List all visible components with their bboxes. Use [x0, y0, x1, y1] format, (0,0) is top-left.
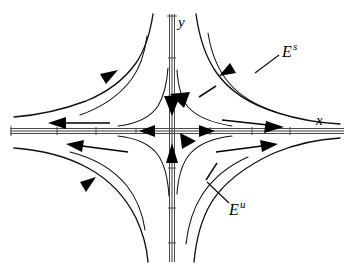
curve-flow-arrows — [80, 63, 236, 192]
trajectory-q4-outer — [194, 138, 340, 262]
x-axis-label: x — [315, 112, 323, 128]
arrow-axis-y-lower — [166, 143, 178, 163]
unstable-manifold-label: E u — [228, 198, 246, 218]
arrow-q3-curve — [80, 177, 96, 192]
y-axis — [167, 14, 177, 262]
arrow-axis-x-right-inner — [199, 125, 215, 137]
stable-manifold-label-sup: s — [293, 40, 297, 52]
axis-flow-arrows — [139, 92, 215, 163]
stable-manifold-label: E s — [281, 40, 297, 60]
trajectory-q1-inner — [208, 33, 276, 112]
direction-arrows — [48, 117, 284, 152]
arrow-straight-lower-left — [66, 140, 128, 152]
arrow-axis-x-left-outer — [180, 133, 196, 149]
stable-manifold-label-base: E — [281, 43, 292, 60]
phase-portrait-figure: x y E s E u — [0, 0, 350, 272]
unstable-manifold-label-base: E — [228, 201, 239, 218]
y-axis-label: y — [176, 14, 185, 30]
arrow-q2-curve — [100, 70, 118, 84]
arrow-axis-x-left-inner — [139, 125, 155, 137]
stable-asymptote-dash — [199, 86, 216, 97]
trajectory-q3-outer — [14, 148, 148, 262]
stable-leader — [255, 55, 279, 73]
trajectory-q2-inner — [80, 36, 147, 115]
trajectory-q3-inner — [70, 152, 145, 230]
labels-group: x y E s E u — [176, 14, 323, 218]
unstable-asymptote-dash — [206, 163, 217, 180]
x-axis — [10, 126, 344, 136]
unstable-manifold-label-sup: u — [240, 198, 246, 210]
arrow-straight-lower-right — [216, 140, 278, 152]
trajectory-inner-q2 — [118, 68, 168, 126]
trajectory-inner-q3 — [118, 136, 169, 196]
trajectory-q2-outer — [14, 14, 153, 117]
trajectory-q1-outer — [196, 14, 340, 124]
arrow-q1-curve — [219, 63, 236, 76]
phase-portrait-canvas: x y E s E u — [0, 0, 350, 272]
